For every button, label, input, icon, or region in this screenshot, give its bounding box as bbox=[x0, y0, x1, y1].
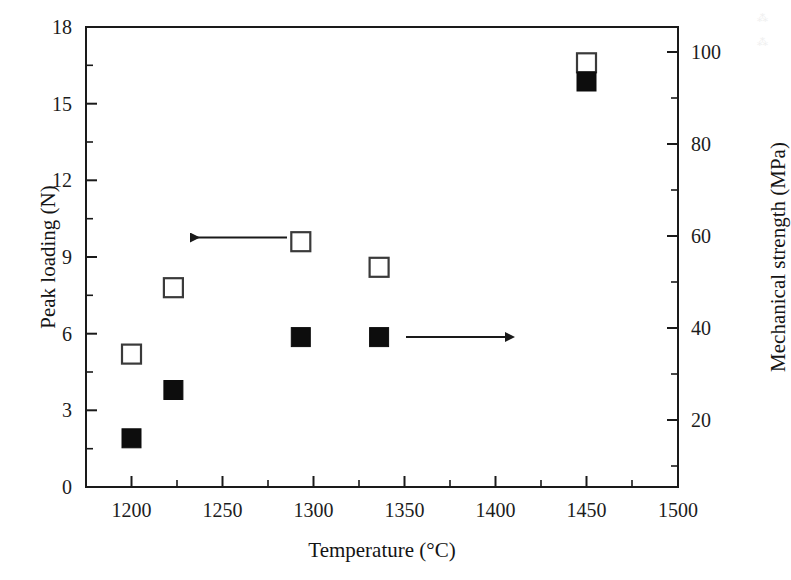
series-mechanical-strength-markers bbox=[122, 72, 596, 448]
y-right-tick-label-100: 100 bbox=[691, 42, 721, 62]
x-tick-label-1250: 1250 bbox=[203, 500, 243, 520]
y-right-tick-label-20: 20 bbox=[691, 410, 711, 430]
data-point-open-square bbox=[122, 345, 141, 364]
y-right-minor-ticks bbox=[671, 98, 678, 466]
data-point-filled-square bbox=[577, 72, 596, 91]
y-right-major-ticks bbox=[667, 52, 678, 420]
y-left-tick-label-0: 0 bbox=[26, 477, 72, 497]
scan-smudge-lower: ⁂ bbox=[757, 36, 768, 49]
data-point-filled-square bbox=[122, 429, 141, 448]
annotation-arrows bbox=[190, 238, 505, 338]
data-point-open-square bbox=[291, 232, 310, 251]
y-right-tick-label-40: 40 bbox=[691, 318, 711, 338]
data-point-filled-square bbox=[164, 381, 183, 400]
data-point-filled-square bbox=[370, 328, 389, 347]
x-tick-label-1300: 1300 bbox=[294, 500, 334, 520]
data-point-open-square bbox=[164, 278, 183, 297]
x-tick-label-1200: 1200 bbox=[112, 500, 152, 520]
x-major-ticks bbox=[132, 476, 679, 487]
y-right-tick-label-60: 60 bbox=[691, 226, 711, 246]
y-left-major-ticks bbox=[86, 27, 97, 487]
x-tick-label-1450: 1450 bbox=[567, 500, 607, 520]
x-tick-label-1350: 1350 bbox=[385, 500, 425, 520]
y-right-tick-label-80: 80 bbox=[691, 134, 711, 154]
y-left-tick-label-18: 18 bbox=[26, 17, 72, 37]
x-axis-title: Temperature (°C) bbox=[308, 538, 455, 563]
scan-smudge-upper: ⁂ bbox=[757, 12, 768, 25]
y-left-tick-label-3: 3 bbox=[26, 400, 72, 420]
y-right-axis-title: Mechanical strength (MPa) bbox=[766, 142, 791, 372]
y-left-axis-title: Peak loading (N) bbox=[36, 185, 61, 328]
x-tick-label-1500: 1500 bbox=[658, 500, 698, 520]
y-left-tick-label-15: 15 bbox=[26, 94, 72, 114]
x-tick-label-1400: 1400 bbox=[476, 500, 516, 520]
series-peak-loading-markers bbox=[122, 53, 596, 363]
data-point-open-square bbox=[370, 258, 389, 277]
data-point-open-square bbox=[577, 53, 596, 72]
data-point-filled-square bbox=[291, 328, 310, 347]
